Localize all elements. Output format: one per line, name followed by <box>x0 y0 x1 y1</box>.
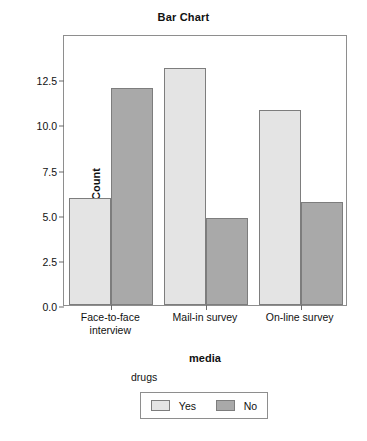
x-tick-label: Face-to-face interview <box>55 311 165 337</box>
y-tick-mark <box>59 307 64 308</box>
legend-swatch-no <box>216 400 235 411</box>
x-tick-mark <box>301 305 302 310</box>
x-tick-mark <box>111 305 112 310</box>
bar-yes-2 <box>259 110 301 305</box>
legend-item-no[interactable]: No <box>216 400 257 412</box>
bars-layer <box>64 36 346 305</box>
legend-label-yes: Yes <box>179 400 196 412</box>
x-axis-labels: Face-to-face interviewMail-in surveyOn-l… <box>63 311 347 351</box>
x-axis-title: media <box>63 352 347 364</box>
x-tick-label: Mail-in survey <box>150 311 260 324</box>
legend-swatch-yes <box>151 400 170 411</box>
legend: Yes No <box>140 392 268 419</box>
bar-no-0 <box>111 88 153 305</box>
plot-area: Count 0.02.55.07.510.012.5 <box>63 35 347 306</box>
bar-no-2 <box>301 202 343 305</box>
bar-yes-1 <box>164 68 206 305</box>
bar-yes-0 <box>69 198 111 305</box>
legend-title: drugs <box>131 371 157 383</box>
legend-label-no: No <box>244 400 257 412</box>
x-tick-mark <box>206 305 207 310</box>
bar-no-1 <box>206 218 248 305</box>
legend-item-yes[interactable]: Yes <box>151 400 196 412</box>
chart-title: Bar Chart <box>0 11 367 23</box>
x-tick-label: On-line survey <box>245 311 355 324</box>
